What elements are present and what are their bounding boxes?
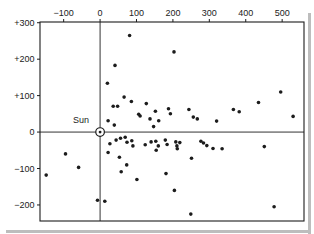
data-point [167, 107, 171, 111]
data-point [106, 81, 110, 85]
data-point [118, 155, 122, 159]
data-point [138, 114, 142, 118]
x-axis-tick-label: 400 [238, 8, 253, 18]
data-point [215, 119, 219, 123]
data-point [111, 104, 115, 108]
x-axis-tick-label: 200 [165, 8, 180, 18]
data-point [189, 212, 193, 216]
data-point [122, 95, 126, 99]
data-point [145, 102, 149, 106]
velocity-scatter-chart: −1000100200300400500+300+200+1000−100−20… [0, 0, 314, 234]
scatter-plot-figure: −1000100200300400500+300+200+1000−100−20… [0, 0, 314, 234]
data-point [119, 170, 123, 174]
data-point [113, 64, 117, 68]
data-point [135, 178, 139, 182]
data-point [192, 115, 196, 119]
data-point [172, 50, 176, 54]
data-point [106, 151, 110, 155]
data-point [116, 104, 120, 108]
data-point [164, 138, 168, 142]
data-point [232, 108, 236, 112]
data-point [130, 100, 134, 104]
y-axis-tick-label: +200 [14, 54, 34, 64]
data-point [257, 101, 261, 105]
x-axis-tick-label: 100 [129, 8, 144, 18]
y-axis-tick-label: +300 [14, 18, 34, 28]
data-point [169, 112, 173, 116]
data-point [176, 147, 180, 151]
data-point [44, 173, 48, 177]
data-point [187, 108, 191, 112]
data-point [125, 163, 129, 167]
data-point [119, 137, 123, 141]
data-point [128, 34, 132, 38]
scan-edge-right [308, 13, 311, 234]
data-point [196, 117, 200, 121]
data-point [211, 147, 215, 151]
data-point [106, 119, 110, 123]
data-point [148, 117, 152, 121]
data-point [279, 90, 283, 94]
data-point [77, 166, 81, 170]
data-point [123, 135, 127, 139]
data-point [103, 200, 107, 204]
data-point [108, 142, 112, 146]
data-point [143, 143, 147, 147]
scan-edge-bottom [6, 230, 311, 233]
x-axis-tick-label: 300 [202, 8, 217, 18]
data-point [113, 123, 117, 127]
data-point [64, 152, 68, 156]
y-axis-tick-label: −200 [14, 200, 34, 210]
data-point [190, 157, 194, 161]
data-point [130, 139, 134, 143]
data-point [157, 119, 161, 123]
data-point [165, 143, 169, 147]
data-point [237, 110, 241, 114]
x-axis-tick-label: 500 [275, 8, 290, 18]
data-point [114, 138, 118, 142]
data-point [154, 149, 158, 153]
x-axis-tick-label: −100 [54, 8, 74, 18]
data-point [272, 205, 276, 209]
data-point [291, 115, 295, 119]
data-point [96, 198, 100, 202]
y-axis-tick-label: 0 [29, 127, 34, 137]
data-point [125, 141, 129, 145]
data-point [174, 140, 178, 144]
data-point [152, 125, 156, 129]
y-axis-tick-label: −100 [14, 164, 34, 174]
data-point [173, 189, 177, 193]
data-point [157, 144, 161, 148]
data-point [202, 141, 206, 145]
data-point [131, 144, 135, 148]
data-point [178, 141, 182, 145]
data-point [220, 147, 224, 151]
data-point [263, 145, 267, 149]
x-axis-tick-label: 0 [98, 8, 103, 18]
data-point [205, 144, 209, 148]
data-point [164, 172, 168, 176]
data-point [154, 110, 158, 114]
y-axis-tick-label: +100 [14, 91, 34, 101]
sun-marker-core [99, 131, 102, 134]
sun-label: Sun [73, 115, 89, 125]
data-point [149, 140, 153, 144]
data-point [154, 139, 158, 143]
